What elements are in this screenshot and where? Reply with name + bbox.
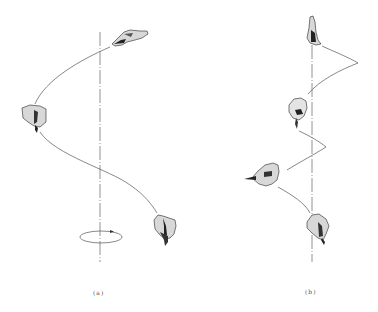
tooth-a-left <box>22 105 46 133</box>
path-curve-b-top <box>308 46 358 94</box>
panel-a-label: (a) <box>93 289 104 296</box>
path-curve-a-upper <box>35 47 110 104</box>
tooth-b-bottom <box>307 214 329 245</box>
panel-b <box>244 16 358 262</box>
tooth-b-left <box>244 163 279 186</box>
path-curve-b-middle <box>287 131 326 170</box>
panel-a <box>22 30 176 262</box>
path-curve-b-bottom <box>278 187 310 213</box>
panel-b-label: (b) <box>305 288 317 295</box>
rotation-indicator-ellipse <box>80 231 122 243</box>
tooth-b-middle <box>289 98 307 129</box>
tooth-b-top <box>307 16 321 45</box>
rotation-arrow-icon <box>110 230 114 233</box>
path-curve-a-lower <box>40 132 157 213</box>
diagram-canvas <box>0 0 378 312</box>
tooth-a-top <box>112 30 148 46</box>
tooth-a-bottom <box>154 215 176 246</box>
